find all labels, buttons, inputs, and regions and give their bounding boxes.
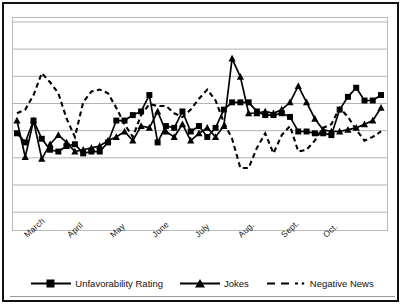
legend-label-jokes: Jokes [224,278,249,289]
data-point-square [196,123,202,129]
legend-item-unfavorability-rating: Unfavorability Rating [31,278,163,289]
series-line [17,73,381,168]
data-point-square [345,94,351,100]
data-point-square [229,99,235,105]
data-point-square [370,98,376,104]
legend-swatch-square-icon [31,278,71,289]
series-jokes [13,55,384,162]
plot-canvas [12,17,388,231]
data-point-square [171,125,177,131]
legend-label-negative-news: Negative News [310,278,374,289]
data-point-square [55,149,61,155]
data-point-triangle [262,108,269,115]
data-point-square [130,112,136,118]
data-point-triangle [295,82,302,89]
data-point-square [113,118,119,124]
data-point-triangle [22,153,29,160]
line-chart-svg [13,18,387,230]
plot-area [12,17,388,231]
data-point-square [312,130,318,136]
data-point-square [204,134,210,140]
data-point-square [97,149,103,155]
data-point-square [155,139,161,145]
legend-item-jokes: Jokes [180,278,249,289]
data-point-square [39,136,45,142]
data-point-triangle [113,133,120,140]
data-point-square [72,141,78,147]
data-point-triangle [286,99,293,106]
data-point-square [146,92,152,98]
data-point-triangle [96,142,103,149]
legend-swatch-triangle-icon [180,278,220,289]
data-point-triangle [204,124,211,131]
legend-label-unfavorability-rating: Unfavorability Rating [75,278,163,289]
x-axis-tick-labels: MarchAprilMayJuneJulyAug.Sept.Oct. [12,232,388,266]
data-point-triangle [55,131,62,138]
data-point-square [287,114,293,120]
chart-legend: Unfavorability Rating Jokes Negative New… [4,272,401,294]
data-point-triangle [311,115,318,122]
data-point-square [237,99,243,105]
data-point-triangle [179,120,186,127]
chart-frame: MarchAprilMayJuneJulyAug.Sept.Oct. Unfav… [2,2,399,302]
data-point-square [188,129,194,135]
data-point-square [213,125,219,131]
data-point-square [378,92,384,98]
data-point-triangle [154,108,161,115]
data-point-triangle [229,55,236,62]
legend-swatch-dashed-icon [266,278,306,289]
data-point-square [179,108,185,114]
gridlines-group [13,22,387,212]
data-point-triangle [303,99,310,106]
data-point-triangle [377,104,384,111]
data-point-triangle [13,117,20,124]
data-point-square [361,98,367,104]
legend-divider [10,296,395,297]
data-point-square [295,129,301,135]
data-point-square [353,85,359,91]
series-group [13,55,384,168]
series-line [17,59,381,159]
legend-item-negative-news: Negative News [266,278,374,289]
data-point-square [304,129,310,135]
series-negative-news [17,73,381,168]
